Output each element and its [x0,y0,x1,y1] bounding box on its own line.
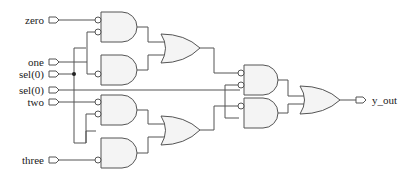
and-gate-1 [95,12,137,42]
and-gate-6 [238,98,278,128]
input-port-one [49,59,59,65]
input-label-three: three [22,154,44,166]
wire [225,85,239,90]
input-port-sel0-b [49,87,59,93]
input-port-three [49,157,59,163]
circuit-diagram: zero one sel(0) sel(0) two three [0,0,417,180]
wire [278,80,304,96]
and-gate-4 [95,138,137,168]
input-port-two [49,99,59,105]
junction-dot [72,72,76,76]
and-gate-5 [238,65,278,95]
input-port-zero [49,17,59,23]
output-label-y-out: y_out [372,94,397,106]
wires [59,20,240,160]
input-label-sel0-a: sel(0) [19,68,44,81]
wire [137,110,165,124]
wire [225,90,239,118]
circuit-svg: zero one sel(0) sel(0) two three [0,0,417,180]
and-gate-3 [95,95,137,125]
input-port-sel0-a [49,71,59,77]
or-gate-3 [300,86,340,114]
input-label-zero: zero [25,14,44,26]
input-label-one: one [28,56,44,68]
or-gate-2 [161,116,200,145]
output-port-y-out [356,97,366,103]
wire [278,104,304,113]
wire [200,48,239,73]
and-gate-2 [95,55,137,85]
or-gate-1 [161,34,200,63]
input-label-two: two [28,96,45,108]
